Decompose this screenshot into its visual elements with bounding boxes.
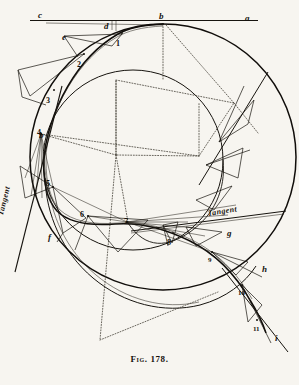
figure-caption: Fig. 178. [0, 354, 299, 364]
node-marks [40, 23, 258, 321]
figure-plate: .ink { stroke:#17140f; fill:none; } .ink… [0, 0, 299, 385]
spiral-curve [44, 24, 266, 333]
figure-drawing: .ink { stroke:#17140f; fill:none; } .ink… [0, 0, 299, 385]
outer-circle [30, 24, 296, 290]
